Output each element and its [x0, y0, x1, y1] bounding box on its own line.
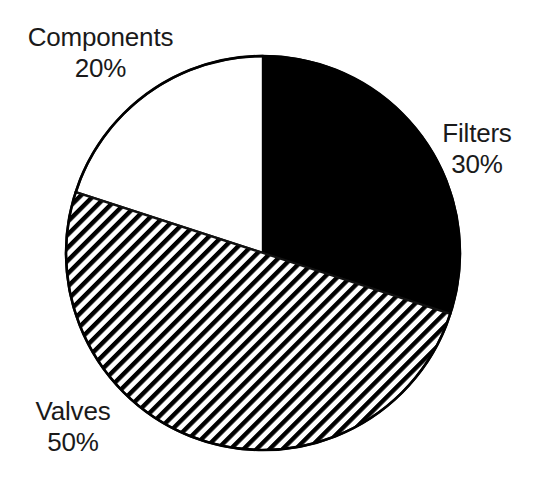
pie-chart-figure: Components 20% Filters 30% Valves 50%	[0, 0, 541, 486]
pie-label-filters: Filters 30%	[418, 118, 536, 180]
pie-label-components: Components 20%	[8, 22, 193, 84]
pie-label-components-value: 20%	[8, 53, 193, 84]
pie-label-valves: Valves 50%	[8, 396, 138, 458]
pie-label-filters-name: Filters	[418, 118, 536, 149]
pie-label-components-name: Components	[8, 22, 193, 53]
pie-label-valves-name: Valves	[8, 396, 138, 427]
pie-label-valves-value: 50%	[8, 427, 138, 458]
pie-label-filters-value: 30%	[418, 149, 536, 180]
